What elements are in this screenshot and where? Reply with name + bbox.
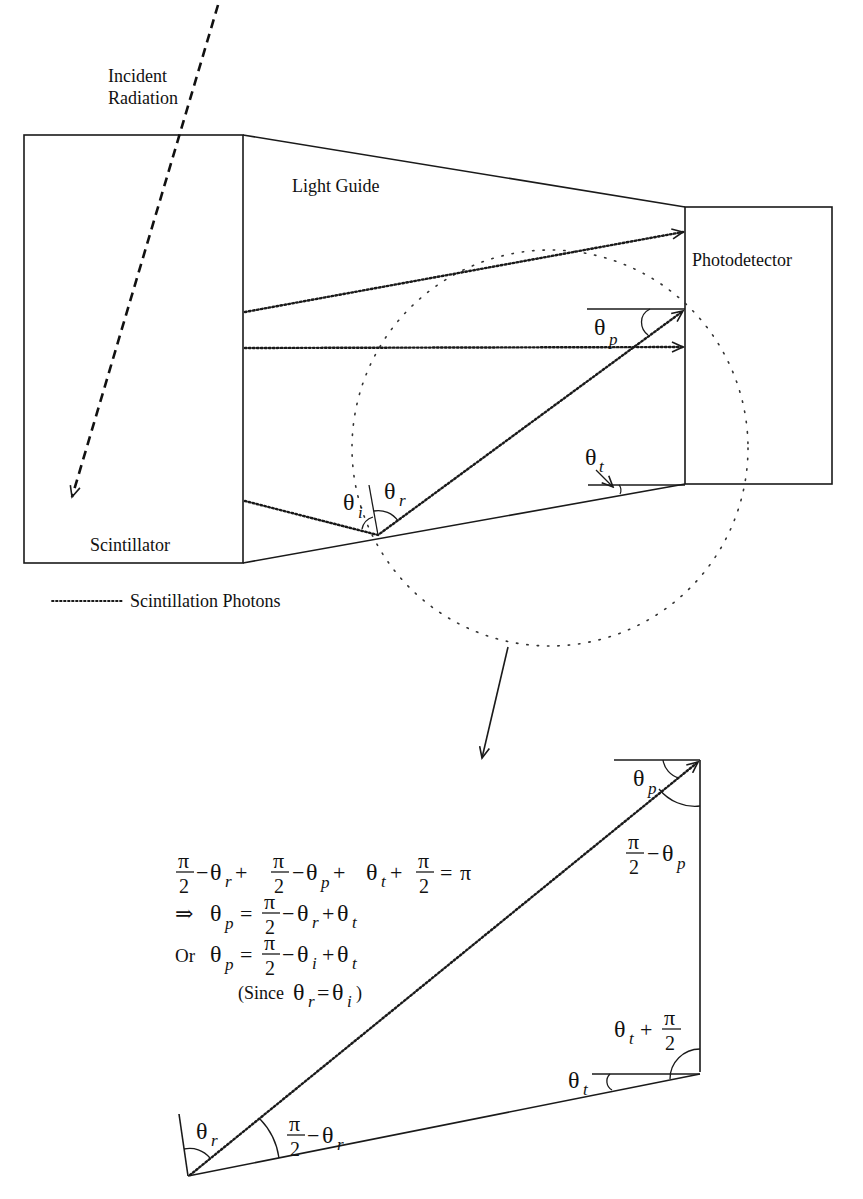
svg-text:θ: θ bbox=[384, 478, 396, 504]
theta-r-arc-lower bbox=[184, 1148, 210, 1158]
svg-text:−: − bbox=[196, 860, 208, 885]
legend-label: Scintillation Photons bbox=[130, 591, 281, 611]
theta-t-arc bbox=[619, 485, 621, 494]
svg-text:θ: θ bbox=[210, 941, 222, 967]
scintillator-box bbox=[24, 135, 243, 563]
svg-text:2: 2 bbox=[665, 1032, 675, 1054]
svg-text:+: + bbox=[640, 1017, 652, 1042]
theta-p-label-lower: θ p bbox=[633, 765, 657, 798]
svg-text:θ: θ bbox=[337, 900, 349, 926]
theta-r-arc bbox=[374, 511, 398, 521]
svg-text:π: π bbox=[264, 889, 275, 914]
light-guide-diagram: Incident Radiation Light Guide Photodete… bbox=[0, 0, 863, 1199]
theta-t-plus-pi2-label: θ t + π 2 bbox=[614, 1005, 681, 1054]
svg-text:p: p bbox=[608, 330, 618, 349]
svg-text:θ: θ bbox=[293, 979, 305, 1005]
normal-magnified bbox=[179, 1114, 188, 1176]
theta-p-arc bbox=[642, 309, 651, 335]
svg-text:θ: θ bbox=[633, 765, 645, 791]
theta-t-label-top: θ t bbox=[585, 444, 605, 476]
theta-t-arc-lower bbox=[607, 1074, 612, 1090]
svg-text:t: t bbox=[381, 872, 387, 891]
svg-text:+: + bbox=[390, 860, 402, 885]
svg-text:θ: θ bbox=[568, 1067, 580, 1093]
equation-line-4: (Since θ r = θ i ) bbox=[238, 979, 362, 1011]
light-guide-top-edge bbox=[243, 135, 685, 207]
svg-text:=: = bbox=[317, 980, 329, 1005]
svg-text:): ) bbox=[356, 983, 362, 1004]
svg-text:θ: θ bbox=[366, 859, 378, 885]
light-guide-label: Light Guide bbox=[292, 176, 380, 196]
svg-text:p: p bbox=[224, 955, 234, 974]
incident-label-line1: Incident bbox=[108, 66, 167, 86]
light-guide-bottom-edge bbox=[243, 484, 685, 563]
svg-text:+: + bbox=[333, 860, 345, 885]
pi2-minus-theta-r-arc bbox=[260, 1119, 279, 1158]
equation-line-3: Or θ p = π 2 − θ i + θ t bbox=[175, 930, 358, 979]
svg-text:+: + bbox=[322, 901, 334, 926]
pi2-minus-theta-r-label: π 2 − θ r bbox=[287, 1111, 344, 1160]
svg-text:p: p bbox=[676, 854, 686, 873]
svg-text:θ: θ bbox=[343, 489, 355, 515]
svg-text:t: t bbox=[352, 913, 358, 932]
svg-text:π: π bbox=[289, 1111, 300, 1136]
svg-text:π: π bbox=[628, 829, 639, 854]
svg-text:r: r bbox=[225, 872, 232, 891]
svg-text:π: π bbox=[418, 848, 429, 873]
svg-text:π: π bbox=[664, 1005, 675, 1030]
svg-text:t: t bbox=[599, 457, 605, 476]
svg-text:⇒: ⇒ bbox=[175, 901, 193, 926]
svg-text:+: + bbox=[322, 942, 334, 967]
svg-text:π: π bbox=[178, 848, 189, 873]
svg-text:θ: θ bbox=[662, 840, 674, 866]
svg-text:(Since: (Since bbox=[238, 983, 284, 1004]
svg-text:θ: θ bbox=[196, 1118, 208, 1144]
svg-text:θ: θ bbox=[297, 941, 309, 967]
equation-line-1: π 2 − θ r + π 2 − θ p + θ t + π 2 = π bbox=[176, 848, 471, 897]
pi2-minus-theta-p-arc bbox=[659, 789, 700, 806]
svg-text:p: p bbox=[320, 873, 330, 892]
svg-text:2: 2 bbox=[274, 875, 284, 897]
svg-text:=: = bbox=[240, 942, 252, 967]
svg-text:−: − bbox=[307, 1123, 319, 1148]
svg-text:π: π bbox=[264, 930, 275, 955]
svg-text:θ: θ bbox=[210, 859, 222, 885]
svg-text:r: r bbox=[211, 1131, 218, 1150]
svg-text:2: 2 bbox=[265, 957, 275, 979]
svg-text:2: 2 bbox=[290, 1138, 300, 1160]
theta-r-label-lower: θ r bbox=[196, 1118, 218, 1150]
svg-text:i: i bbox=[312, 954, 317, 973]
svg-text:−: − bbox=[282, 901, 294, 926]
svg-text:t: t bbox=[352, 954, 358, 973]
svg-text:−: − bbox=[282, 942, 294, 967]
svg-text:i: i bbox=[347, 992, 352, 1011]
svg-text:−: − bbox=[647, 841, 659, 866]
magnifier-circle bbox=[352, 250, 748, 646]
svg-text:θ: θ bbox=[297, 900, 309, 926]
photodetector-label: Photodetector bbox=[692, 250, 792, 270]
theta-p-label-top: θ p bbox=[594, 314, 618, 349]
svg-text:θ: θ bbox=[614, 1016, 626, 1042]
theta-p-arc-lower bbox=[663, 760, 679, 778]
svg-text:r: r bbox=[399, 491, 406, 510]
svg-text:θ: θ bbox=[306, 859, 318, 885]
svg-text:θ: θ bbox=[585, 444, 597, 470]
svg-text:π: π bbox=[273, 848, 284, 873]
svg-text:Or: Or bbox=[175, 945, 196, 966]
photon-ray-1 bbox=[245, 232, 683, 312]
svg-text:i: i bbox=[358, 503, 363, 522]
theta-i-label-top: θ i bbox=[343, 489, 363, 522]
svg-text:θ: θ bbox=[337, 941, 349, 967]
theta-t-label-lower: θ t bbox=[568, 1067, 589, 1099]
incident-label-line2: Radiation bbox=[108, 88, 178, 108]
svg-text:p: p bbox=[647, 779, 657, 798]
svg-text:2: 2 bbox=[419, 875, 429, 897]
svg-text:r: r bbox=[312, 913, 319, 932]
scintillator-label: Scintillator bbox=[90, 535, 170, 555]
svg-text:=: = bbox=[440, 860, 452, 885]
svg-text:−: − bbox=[292, 860, 304, 885]
svg-text:=: = bbox=[240, 901, 252, 926]
svg-text:+: + bbox=[235, 860, 247, 885]
svg-text:r: r bbox=[308, 992, 315, 1011]
svg-text:r: r bbox=[337, 1135, 344, 1154]
